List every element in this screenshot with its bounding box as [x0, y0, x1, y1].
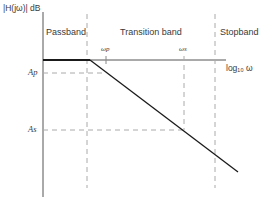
wp-label: ωp [101, 46, 109, 53]
region-transition-label: Transition band [120, 28, 182, 37]
y-axis-label: |H(jω)| dB [3, 4, 41, 13]
response-rolloff [90, 60, 238, 172]
region-passband-label: Passband [46, 28, 86, 37]
ws-label: ωs [179, 46, 187, 53]
x-axis-label: log₁₀ ω [226, 64, 253, 73]
ap-label: Ap [28, 68, 37, 77]
region-stopband-label: Stopband [220, 28, 259, 37]
as-label: As [28, 125, 37, 134]
